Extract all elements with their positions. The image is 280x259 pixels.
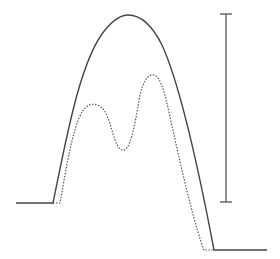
diagram-canvas [0, 0, 280, 259]
solid-envelope-curve [16, 15, 267, 250]
dotted-double-peak-curve [53, 75, 214, 250]
scale-bar [220, 14, 232, 202]
